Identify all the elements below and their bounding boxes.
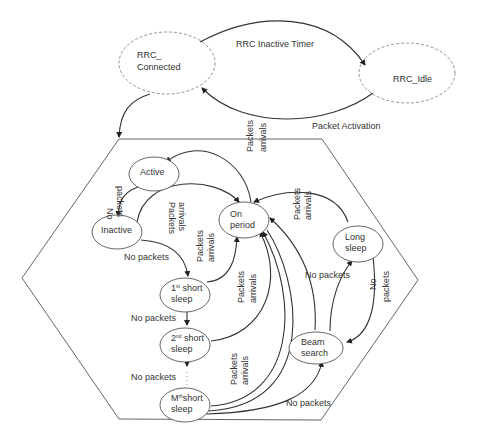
label-arrivals-shortM-on: arrivals — [240, 355, 250, 385]
active-label: Active — [140, 167, 165, 177]
label-packets-short1-on: Packets — [195, 229, 205, 262]
first-short-sleep-label-line1: 1st short — [171, 283, 203, 293]
rrc-inactive-timer-label: RRC Inactive Timer — [236, 39, 314, 49]
label-packets-inactive-on: Packets — [167, 202, 177, 235]
packet-activation-label: Packet Activation — [312, 121, 381, 131]
rrc-connected-label-line2: Connected — [137, 62, 181, 72]
edge-long-to-beam — [347, 257, 375, 342]
label-no-packets-inactive-short1: No packets — [124, 252, 170, 262]
label-arrivals-on-active: arrivals — [258, 122, 268, 152]
second-short-sleep-label-line2: sleep — [171, 344, 193, 354]
label-no-long-beam: No — [368, 278, 378, 290]
rrc-idle-state — [359, 43, 455, 103]
label-packets-short2-on: Packets — [236, 270, 246, 303]
first-short-sleep-label-line2: sleep — [171, 294, 193, 304]
inactive-label: Inactive — [101, 225, 132, 235]
label-arrivals-inactive-on: arrivals — [177, 202, 187, 232]
beam-search-label-line1: Beam — [301, 337, 325, 347]
long-sleep-label-line2: sleep — [345, 243, 367, 253]
mth-short-sleep-label-line2: sleep — [171, 404, 193, 414]
label-arrivals-short2-on: arrivals — [248, 273, 258, 303]
edge-packet-activation — [202, 88, 373, 119]
label-no-packets-short1-short2: No packets — [131, 313, 177, 323]
edge-connected-to-inner — [119, 94, 150, 137]
label-arrivals-long-on: arrivals — [303, 190, 313, 220]
label-packets-shortM-on: Packets — [229, 352, 239, 385]
rrc-idle-label: RRC_Idle — [393, 74, 432, 84]
on-period-label-line2: period — [230, 220, 255, 230]
label-no-packets-shortM-beam: No packets — [286, 398, 332, 408]
on-period-label-line1: On — [230, 209, 242, 219]
label-no-packets-short2-shortM: No packets — [131, 372, 177, 382]
inner-hexagon-boundary — [22, 139, 418, 420]
label-packets-long-on: Packets — [292, 187, 302, 220]
beam-search-label-line2: search — [301, 348, 328, 358]
label-packets-active-inactive: packets — [115, 186, 125, 218]
label-packets-long-beam: packets — [381, 270, 391, 302]
label-packets-on-active: Packets — [245, 119, 255, 152]
rrc-connected-label-line1: RRC_ — [137, 50, 162, 60]
state-diagram: RRC_ Connected RRC_Idle RRC Inactive Tim… — [0, 0, 478, 438]
edge-shortM-to-on-2 — [209, 230, 293, 411]
label-arrivals-short1-on: arrivals — [206, 232, 216, 262]
long-sleep-label-line1: Long — [345, 232, 365, 242]
label-no-packets-beam-long: No packets — [305, 270, 351, 280]
mth-short-sleep-label-line1: Mthshort — [171, 393, 203, 403]
label-no-active-inactive: No — [105, 208, 115, 220]
